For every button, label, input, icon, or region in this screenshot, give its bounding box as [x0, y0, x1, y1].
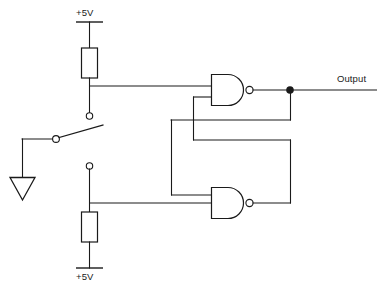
vcc-bottom-label: +5V — [76, 272, 93, 282]
switch-lower-contact-terminal — [86, 163, 92, 169]
schematic-canvas — [0, 0, 377, 291]
nand-gate-1-inversion-bubble — [246, 86, 253, 93]
switch-upper-contact-terminal — [86, 113, 92, 119]
nand-gate-2-inversion-bubble — [246, 199, 253, 206]
resistor-r1 — [82, 48, 98, 78]
vcc-top-label: +5V — [76, 8, 93, 18]
nand-gate-1-body — [212, 75, 244, 106]
output-label: Output — [337, 74, 366, 84]
circuit-diagram: +5V +5V Output — [0, 0, 377, 291]
switch-pivot-terminal — [53, 136, 60, 143]
nand-gate-2-body — [212, 188, 244, 219]
ground-symbol — [10, 178, 35, 201]
switch-lever[interactable] — [59, 125, 103, 138]
resistor-r2 — [82, 212, 98, 242]
